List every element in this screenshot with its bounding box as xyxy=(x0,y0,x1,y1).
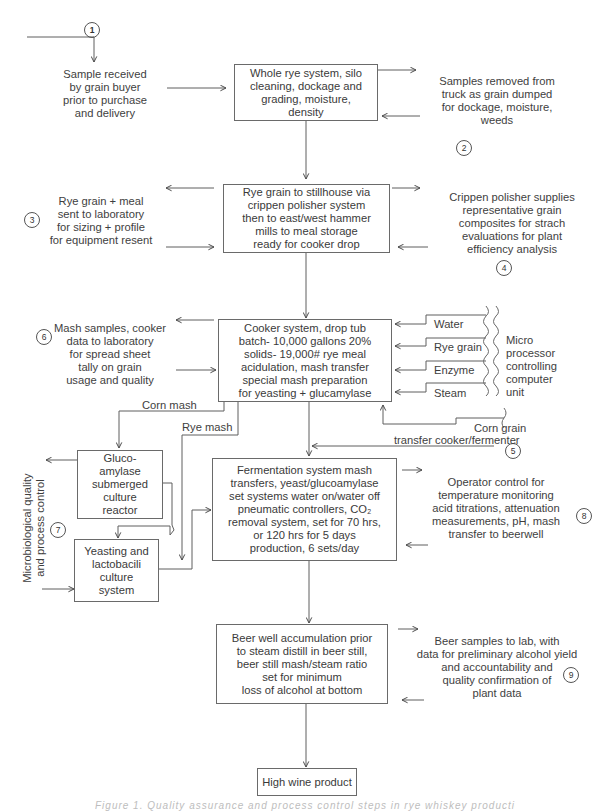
note-operator-control: Operator control for temperature monitor… xyxy=(418,476,574,541)
note-crippen-polisher: Crippen polisher supplies representative… xyxy=(432,191,592,256)
input-label-enzyme: Enzyme xyxy=(434,364,474,377)
note-sample-received: Sample received by grain buyer prior to … xyxy=(40,68,170,120)
note-beer-samples: Beer samples to lab, with data for preli… xyxy=(408,635,586,700)
box-whole-rye-system-text: Whole rye system, silo cleaning, dockage… xyxy=(250,67,362,119)
note-micro-processor: Micro processor controlling computer uni… xyxy=(506,334,576,399)
bracket-squiggles xyxy=(484,306,507,428)
box-fermentation-system: Fermentation system mash transfers, yeas… xyxy=(212,458,397,561)
step-marker-8: 8 xyxy=(576,508,592,524)
step-marker-2: 2 xyxy=(456,140,472,156)
step-marker-1: 1 xyxy=(84,22,100,38)
figure-caption: Figure 1. Quality assurance and process … xyxy=(95,800,515,811)
note-samples-removed: Samples removed from truck as grain dump… xyxy=(422,75,572,127)
input-label-rye-grain: Rye grain xyxy=(434,341,482,354)
note-microbiological-quality: Microbiological quality and process cont… xyxy=(21,463,47,593)
box-yeasting-culture: Yeasting and lactobacili culture system xyxy=(74,539,159,602)
box-glucoamylase-reactor: Gluco- amylase submerged culture reactor xyxy=(77,450,163,519)
box-yeasting-culture-text: Yeasting and lactobacili culture system xyxy=(84,545,148,597)
box-cooker-system-text: Cooker system, drop tub batch- 10,000 ga… xyxy=(239,322,372,400)
box-high-wine-product: High wine product xyxy=(257,768,357,796)
flow-label-rye-mash: Rye mash xyxy=(182,421,232,434)
box-fermentation-system-text: Fermentation system mash transfers, yeas… xyxy=(228,464,381,555)
box-whole-rye-system: Whole rye system, silo cleaning, dockage… xyxy=(234,64,378,121)
note-mash-samples: Mash samples, cooker data to laboratory … xyxy=(40,322,180,387)
input-label-transfer-cooker-fermenter: transfer cooker/fermenter xyxy=(394,434,520,447)
input-label-steam: Steam xyxy=(434,387,466,400)
step-marker-7: 7 xyxy=(50,522,66,538)
box-rye-to-stillhouse: Rye grain to stillhouse via crippen poli… xyxy=(223,184,390,253)
box-rye-to-stillhouse-text: Rye grain to stillhouse via crippen poli… xyxy=(242,186,371,251)
box-high-wine-product-text: High wine product xyxy=(262,776,352,789)
box-beer-well-text: Beer well accumulation prior to steam di… xyxy=(232,632,373,697)
flow-label-corn-mash: Corn mash xyxy=(142,399,197,412)
box-glucoamylase-reactor-text: Gluco- amylase submerged culture reactor xyxy=(92,452,148,517)
input-label-water: Water xyxy=(434,318,463,331)
step-marker-4: 4 xyxy=(496,260,512,276)
note-rye-grain-meal-lab: Rye grain + meal sent to laboratory for … xyxy=(36,195,166,247)
box-beer-well: Beer well accumulation prior to steam di… xyxy=(216,624,388,704)
box-cooker-system: Cooker system, drop tub batch- 10,000 ga… xyxy=(218,319,392,402)
